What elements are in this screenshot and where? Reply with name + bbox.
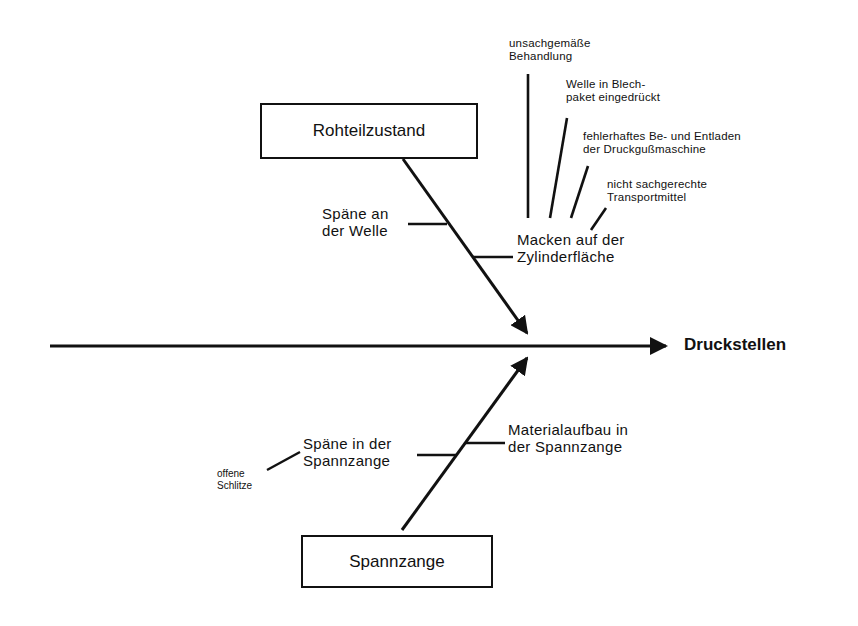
subcause-welle-in-blechpaket: Welle in Blech- paket eingedrückt: [566, 78, 660, 103]
cause-macken-auf-der-zylinderflaeche: Macken auf der Zylinderfläche: [517, 231, 625, 266]
subcause-line-2: [550, 118, 567, 218]
subcause-unsachgemaesse-behandlung: unsachgemäße Behandlung: [509, 37, 591, 62]
effect-label-druckstellen: Druckstellen: [684, 335, 786, 355]
cause-spaene-in-der-spannzange: Späne in der Spannzange: [303, 435, 392, 470]
subcause-offene-schlitze: offene Schlitze: [217, 468, 252, 491]
cause-spaene-an-der-welle: Späne an der Welle: [322, 205, 389, 240]
category-box-rohteilzustand: Rohteilzustand: [260, 103, 478, 159]
subcause-line-4: [591, 208, 606, 230]
subcause-line-3: [571, 166, 588, 218]
cause-materialaufbau-in-der-spannzange: Materialaufbau in der Spannzange: [508, 421, 628, 456]
subcause-fehlerhaftes-be-und-entladen: fehlerhaftes Be- und Entladen der Druckg…: [583, 130, 741, 155]
category-box-spannzange: Spannzange: [301, 535, 493, 588]
category-label-spannzange: Spannzange: [349, 552, 444, 572]
category-label-rohteilzustand: Rohteilzustand: [313, 121, 425, 141]
subcause-nicht-sachgerechte-transportmittel: nicht sachgerechte Transportmittel: [607, 178, 707, 203]
fishbone-lines: [0, 0, 858, 626]
offene-schlitze-line: [267, 452, 300, 470]
rohteilzustand-bone-arrow: [403, 159, 527, 333]
